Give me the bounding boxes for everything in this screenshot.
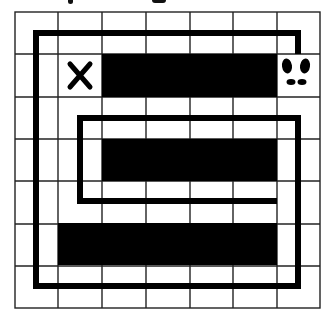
footprints-icon xyxy=(281,58,311,85)
blocked-bar-2 xyxy=(102,139,277,181)
blocked-bar-1 xyxy=(102,54,277,97)
maze-diagram xyxy=(0,0,332,316)
maze-puzzle xyxy=(0,0,332,316)
x-mark-icon xyxy=(70,64,90,87)
blocked-bar-3 xyxy=(58,223,277,265)
